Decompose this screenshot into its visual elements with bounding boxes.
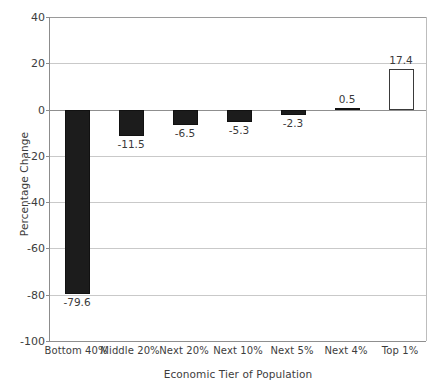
bar-next-10[interactable]	[227, 110, 252, 122]
y-axis-title: Percentage Change	[18, 114, 30, 254]
y-tick-mark	[46, 63, 50, 64]
gridline	[50, 248, 426, 249]
y-tick-label: -100	[5, 335, 45, 348]
x-tick-label: Top 1%	[382, 345, 419, 356]
plot-area: 40200-20-40-60-80-100-79.6-11.5-6.5-5.3-…	[49, 17, 427, 341]
bar-middle-20[interactable]	[119, 110, 144, 137]
y-tick-label: -40	[5, 196, 45, 209]
bar-top-1[interactable]	[389, 69, 414, 109]
gridline	[50, 202, 426, 203]
bar-next-20[interactable]	[173, 110, 198, 125]
y-tick-mark	[46, 202, 50, 203]
bar-value-label: 0.5	[339, 93, 356, 105]
bar-value-label: -6.5	[175, 127, 196, 139]
y-tick-label: 40	[5, 11, 45, 24]
x-tick-label: Next 5%	[270, 345, 313, 356]
bar-next-4[interactable]	[335, 108, 360, 110]
x-tick-label: Next 10%	[213, 345, 263, 356]
y-tick-mark	[46, 248, 50, 249]
bar-value-label: -2.3	[283, 117, 304, 129]
bar-chart: Percentage Change 40200-20-40-60-80-100-…	[0, 0, 441, 388]
y-tick-label: -20	[5, 149, 45, 162]
y-tick-label: -80	[5, 288, 45, 301]
x-axis-title: Economic Tier of Population	[49, 368, 427, 380]
gridline	[50, 63, 426, 64]
y-tick-label: 20	[5, 57, 45, 70]
gridline	[50, 341, 426, 342]
x-tick-label: Next 20%	[159, 345, 209, 356]
bar-next-5[interactable]	[281, 110, 306, 115]
x-tick-label: Bottom 40%	[44, 345, 107, 356]
y-tick-mark	[46, 295, 50, 296]
gridline	[50, 17, 426, 18]
y-tick-mark	[46, 156, 50, 157]
bar-value-label: -79.6	[63, 296, 90, 308]
y-tick-label: -60	[5, 242, 45, 255]
y-tick-mark	[46, 17, 50, 18]
y-tick-mark	[46, 341, 50, 342]
gridline	[50, 295, 426, 296]
bar-value-label: 17.4	[389, 54, 412, 66]
bar-value-label: -5.3	[229, 124, 250, 136]
y-tick-label: 0	[5, 103, 45, 116]
bar-value-label: -11.5	[117, 138, 144, 150]
gridline	[50, 156, 426, 157]
y-tick-mark	[46, 110, 50, 111]
x-tick-label: Middle 20%	[100, 345, 159, 356]
x-tick-label: Next 4%	[324, 345, 367, 356]
bar-bottom-40[interactable]	[65, 110, 90, 294]
